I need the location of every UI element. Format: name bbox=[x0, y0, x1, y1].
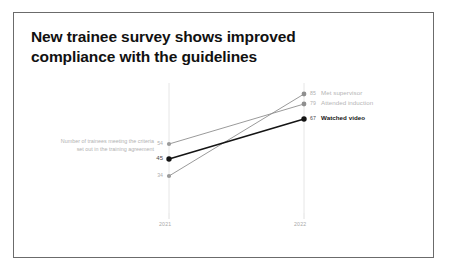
series-point-attended-induction-2022 bbox=[302, 102, 307, 107]
axis-label-2021: 2021 bbox=[159, 221, 171, 227]
series-point-watched-video-2022 bbox=[301, 116, 306, 121]
value-label-end-watched-video: 67 bbox=[310, 115, 316, 121]
axis-label-2022: 2022 bbox=[294, 221, 306, 227]
slide-frame: New trainee survey shows improved compli… bbox=[13, 12, 434, 258]
chart-canvas bbox=[14, 13, 435, 259]
chart-left-annotation: Number of trainees meeting the criteria … bbox=[60, 137, 154, 154]
value-label-end-met-supervisor: 85 bbox=[310, 90, 316, 96]
series-label-met-supervisor: Met supervisor bbox=[321, 89, 362, 96]
value-label-start-met-supervisor: 34 bbox=[147, 172, 163, 178]
value-label-end-attended-induction: 79 bbox=[310, 100, 316, 106]
value-label-start-watched-video: 45 bbox=[147, 155, 163, 161]
series-point-watched-video-2021 bbox=[166, 156, 171, 161]
series-line-attended-induction bbox=[169, 104, 304, 144]
series-label-attended-induction: Attended induction bbox=[321, 99, 373, 106]
series-point-attended-induction-2021 bbox=[167, 142, 171, 146]
series-point-met-supervisor-2022 bbox=[302, 92, 307, 97]
series-line-met-supervisor bbox=[169, 94, 304, 176]
series-line-watched-video bbox=[169, 119, 304, 159]
series-label-watched-video: Watched video bbox=[321, 114, 365, 121]
line-chart: 54 45 34 85 79 67 Met supervisor Attende… bbox=[14, 13, 435, 259]
series-point-met-supervisor-2021 bbox=[167, 174, 171, 178]
